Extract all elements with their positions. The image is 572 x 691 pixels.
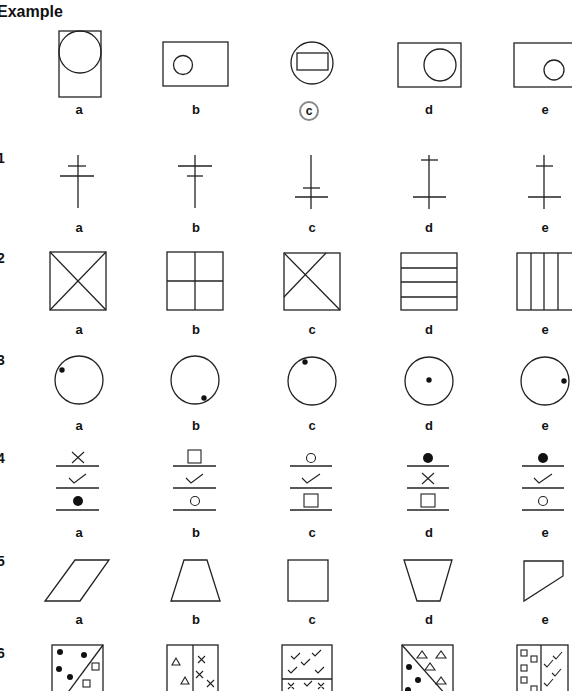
q5-figure-b[interactable] (171, 560, 220, 601)
q3-figure-d[interactable] (405, 357, 453, 405)
example-figure-d[interactable] (398, 43, 461, 87)
q4-figure-b[interactable] (173, 450, 216, 510)
q6-figure-b[interactable] (167, 645, 218, 691)
example-figure-b[interactable] (163, 42, 228, 86)
q6-figure-c[interactable] (282, 645, 332, 691)
q2-figure-c[interactable] (284, 253, 340, 310)
example-figure-c[interactable] (291, 42, 333, 84)
q3-figure-a[interactable] (55, 356, 103, 404)
q6-figure-e[interactable] (517, 645, 568, 691)
q1-figure-a[interactable] (60, 155, 94, 208)
q1-figure-e[interactable] (528, 155, 561, 209)
example-figure-e[interactable] (514, 43, 572, 87)
figures-canvas (0, 0, 572, 691)
q6-figure-d[interactable] (402, 645, 453, 691)
q6-figure-a[interactable] (52, 645, 103, 691)
q4-figure-d[interactable] (407, 453, 449, 510)
q4-figure-c[interactable] (290, 454, 332, 511)
q4-figure-a[interactable] (56, 452, 99, 510)
q1-figure-c[interactable] (295, 155, 328, 209)
q3-figure-c[interactable] (288, 357, 336, 405)
q5-figure-a[interactable] (45, 560, 109, 601)
q2-figure-d[interactable] (401, 253, 457, 310)
q4-figure-e[interactable] (522, 453, 564, 510)
example-figure-a[interactable] (59, 31, 101, 97)
q2-figure-a[interactable] (50, 252, 106, 310)
q5-figure-d[interactable] (404, 560, 452, 601)
q1-figure-b[interactable] (178, 155, 212, 208)
q3-figure-b[interactable] (171, 356, 219, 404)
q1-figure-d[interactable] (413, 155, 446, 209)
q2-figure-e[interactable] (517, 253, 572, 310)
q2-figure-b[interactable] (167, 252, 223, 310)
q5-figure-e[interactable] (524, 561, 563, 601)
q5-figure-c[interactable] (288, 560, 328, 601)
q3-figure-e[interactable] (521, 357, 569, 405)
